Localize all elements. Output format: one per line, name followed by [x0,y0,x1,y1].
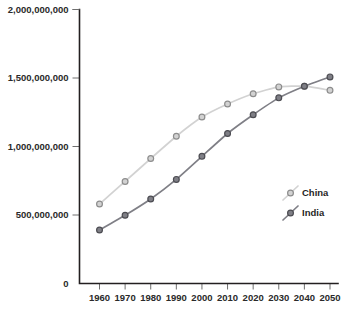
data-point [199,114,205,120]
y-axis-group: 0500,000,0001,000,000,0001,500,000,0002,… [8,4,80,289]
chart-legend: ChinaIndia [283,186,329,220]
legend-label: India [302,207,325,218]
y-tick-label: 1,500,000,000 [8,72,69,83]
data-point [225,131,231,137]
data-point [250,112,256,118]
data-point [199,153,205,159]
legend-label: China [302,187,329,198]
x-tick-label: 1990 [166,292,187,303]
data-point [250,91,256,97]
series-line-india [100,77,331,230]
data-point [225,101,231,107]
x-tick-label: 2010 [217,292,238,303]
data-point [327,87,333,93]
data-point [276,84,282,90]
legend-item-china[interactable]: China [283,186,329,200]
data-point [276,95,282,101]
data-point [97,201,103,207]
data-point [148,156,154,162]
x-tick-label: 2050 [319,292,340,303]
chart-axes [80,10,339,284]
data-point [301,83,307,89]
x-tick-label: 2030 [268,292,289,303]
chart-canvas: 0500,000,0001,000,000,0001,500,000,0002,… [0,0,350,317]
y-tick-label: 2,000,000,000 [8,4,69,15]
x-tick-label: 1980 [140,292,161,303]
data-point [122,179,128,185]
population-line-chart: 0500,000,0001,000,000,0001,500,000,0002,… [0,0,350,317]
x-tick-label: 1970 [115,292,136,303]
x-tick-label: 2040 [294,292,315,303]
legend-item-india[interactable]: India [283,206,325,220]
x-tick-label: 1960 [89,292,110,303]
series-india [97,74,333,233]
data-point [122,212,128,218]
legend-marker [288,190,294,196]
x-tick-label: 2000 [191,292,212,303]
y-tick-label: 1,000,000,000 [8,141,69,152]
data-point [97,227,103,233]
y-tick-label: 500,000,000 [16,209,69,220]
y-tick-label: 0 [63,278,68,289]
data-point [173,176,179,182]
x-axis-group: 1960197019801990200020102020203020402050 [89,284,341,303]
data-point [327,74,333,80]
x-tick-label: 2020 [243,292,264,303]
data-point [148,196,154,202]
legend-marker [288,210,294,216]
data-point [173,133,179,139]
